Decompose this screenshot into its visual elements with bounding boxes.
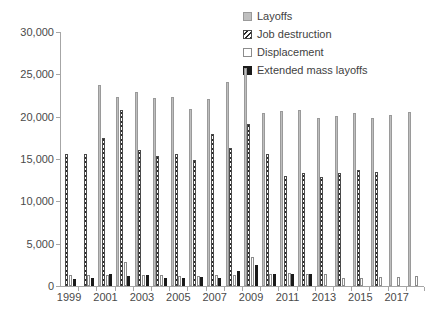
bar-extended-mass-layoffs-2002 [127, 276, 130, 286]
x-axis-tick-label: 1999 [57, 292, 81, 303]
bar-layoffs-2013 [317, 118, 320, 286]
y-axis-tick-label: 5,000 [26, 238, 54, 249]
bar-layoffs-2017 [389, 115, 392, 286]
bar-job-destruction-2013 [320, 177, 323, 286]
y-axis-tick-label: 0 [48, 281, 54, 292]
bar-layoffs-2015 [353, 113, 356, 286]
bar-displacement-2017 [397, 277, 400, 286]
bar-job-destruction-1999 [65, 154, 68, 286]
x-axis-tick-label: 2017 [384, 292, 408, 303]
bar-job-destruction-2000 [84, 154, 87, 286]
bar-layoffs-2007 [207, 99, 210, 286]
bar-layoffs-2005 [171, 97, 174, 286]
x-axis-tick-label: 2013 [312, 292, 336, 303]
bar-displacement-2006 [197, 276, 200, 286]
bar-displacement-2010 [269, 274, 272, 286]
bar-displacement-2012 [306, 274, 309, 286]
bar-extended-mass-layoffs-2009 [255, 265, 258, 286]
legend-label-layoffs: Layoffs [257, 11, 292, 22]
x-axis-tick-label: 2015 [348, 292, 372, 303]
bar-job-destruction-2003 [138, 150, 141, 286]
bar-layoffs-2010 [262, 113, 265, 286]
bar-displacement-2018 [415, 276, 418, 286]
bar-job-destruction-2015 [357, 170, 360, 286]
bar-job-destruction-2001 [102, 138, 105, 286]
x-axis-tick [424, 287, 425, 291]
legend-item-layoffs: Layoffs [243, 9, 367, 24]
bar-displacement-2013 [324, 274, 327, 286]
bar-displacement-2016 [379, 277, 382, 286]
bar-displacement-2001 [106, 275, 109, 286]
x-axis-tick-label: 2011 [276, 292, 300, 303]
y-axis-tick-label: 20,000 [20, 111, 54, 122]
bar-layoffs-2003 [135, 92, 138, 286]
layoffs-swatch-icon [243, 12, 252, 21]
bar-displacement-2000 [87, 275, 90, 286]
plot-area: 05,00010,00015,00020,00025,00030,000 199… [60, 32, 424, 287]
bar-layoffs-2009 [244, 68, 247, 286]
bar-job-destruction-2009 [247, 124, 250, 286]
bar-extended-mass-layoffs-2010 [273, 274, 276, 286]
bar-extended-mass-layoffs-2011 [291, 274, 294, 286]
bar-job-destruction-2002 [120, 110, 123, 286]
bar-layoffs-2001 [98, 85, 101, 286]
bar-extended-mass-layoffs-2012 [309, 274, 312, 286]
bar-extended-mass-layoffs-2006 [200, 277, 203, 286]
y-axis-tick-label: 10,000 [20, 196, 54, 207]
bar-displacement-2003 [142, 275, 145, 286]
x-axis-tick-label: 2005 [166, 292, 190, 303]
x-axis-tick-label: 2007 [202, 292, 226, 303]
bar-displacement-1999 [69, 275, 72, 286]
bar-extended-mass-layoffs-2003 [146, 275, 149, 286]
bars-layer [60, 32, 424, 287]
bar-layoffs-2014 [335, 116, 338, 286]
y-axis-tick-label: 15,000 [20, 154, 54, 165]
bar-displacement-2009 [251, 257, 254, 286]
bar-layoffs-2011 [280, 111, 283, 286]
bar-extended-mass-layoffs-2005 [182, 278, 185, 286]
bar-layoffs-2004 [153, 98, 156, 286]
bar-job-destruction-2014 [338, 173, 341, 286]
bar-layoffs-2012 [298, 110, 301, 286]
bar-job-destruction-2005 [175, 154, 178, 286]
bar-displacement-2005 [178, 276, 181, 286]
bar-job-destruction-2011 [284, 176, 287, 286]
bar-displacement-2007 [215, 275, 218, 286]
y-axis-tick-label: 30,000 [20, 27, 54, 38]
x-axis-tick-label: 2009 [239, 292, 263, 303]
bar-displacement-2008 [233, 275, 236, 286]
bar-displacement-2015 [360, 278, 363, 286]
bar-job-destruction-2010 [266, 154, 269, 286]
bar-layoffs-2002 [116, 97, 119, 286]
bar-extended-mass-layoffs-2001 [109, 274, 112, 286]
bar-displacement-2002 [124, 262, 127, 286]
bar-job-destruction-2006 [193, 160, 196, 286]
x-axis-tick-label: 2001 [93, 292, 117, 303]
bar-job-destruction-2004 [156, 156, 159, 286]
y-axis-tick-label: 25,000 [20, 69, 54, 80]
bar-extended-mass-layoffs-2008 [237, 271, 240, 286]
bar-displacement-2014 [342, 278, 345, 286]
bar-extended-mass-layoffs-1999 [73, 279, 76, 286]
bar-layoffs-2006 [189, 109, 192, 286]
x-axis-tick-label: 2003 [130, 292, 154, 303]
bar-chart: Layoffs Job destruction Displacement Ext… [0, 0, 436, 320]
bar-extended-mass-layoffs-2000 [91, 278, 94, 286]
bar-extended-mass-layoffs-2004 [164, 278, 167, 286]
bar-layoffs-2018 [408, 112, 411, 286]
bar-displacement-2004 [160, 275, 163, 286]
bar-job-destruction-2016 [375, 172, 378, 286]
bar-extended-mass-layoffs-2007 [218, 278, 221, 286]
bar-layoffs-2016 [371, 118, 374, 286]
bar-job-destruction-2012 [302, 173, 305, 286]
bar-layoffs-2008 [226, 82, 229, 286]
bar-job-destruction-2008 [229, 148, 232, 286]
bar-displacement-2011 [288, 273, 291, 286]
bar-job-destruction-2007 [211, 134, 214, 286]
